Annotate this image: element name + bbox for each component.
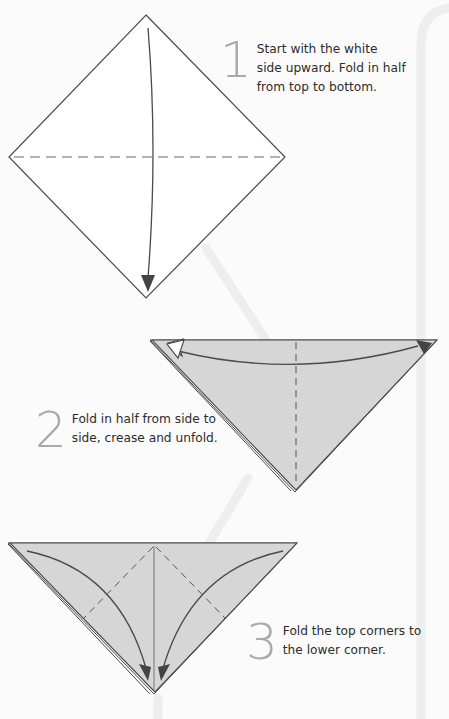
fold-diagrams [0, 0, 449, 719]
step-3-instruction: 3 Fold the top corners to the lower corn… [246, 620, 421, 664]
step-2-instruction: 2 Fold in half from side to side, crease… [35, 408, 218, 452]
step-number: 1 [220, 38, 252, 82]
step-1-instruction: 1 Start with the white side upward. Fold… [220, 38, 406, 97]
step-number: 2 [35, 408, 67, 452]
step-text: Fold in half from side to side, crease a… [72, 408, 218, 448]
step-text: Start with the white side upward. Fold i… [257, 38, 406, 97]
step-number: 3 [246, 620, 278, 664]
step-text: Fold the top corners to the lower corner… [283, 620, 421, 660]
